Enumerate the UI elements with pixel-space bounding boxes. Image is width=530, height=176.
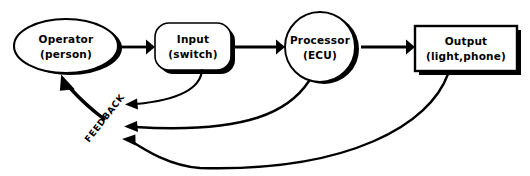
arrow-processor-to-output [361,40,415,55]
feedback-from-processor-head [124,121,138,132]
output-label-line2: (light,phone) [426,50,506,62]
arrow-operator-to-input-head [146,40,155,55]
operator-label-line1: Operator [39,33,94,45]
output-box-fill [415,26,517,71]
feedback-from-processor [124,81,309,132]
input-label-line1: Input [177,33,209,45]
feedback-from-output [122,74,448,168]
processor-label-line2: (ECU) [303,49,337,61]
arrow-input-to-processor-head [276,40,285,55]
input-label-line2: (switch) [168,48,217,60]
feedback-from-output-head [122,134,137,146]
feedback-from-processor-shaft [135,81,309,128]
feedback-return-shaft [70,88,104,119]
diagram-svg: Operator (person) Input (switch) Process… [0,0,530,176]
feedback-label: FEEDBACK [83,92,127,144]
node-output[interactable]: Output (light,phone) [415,26,521,75]
feedback-from-output-shaft [131,74,448,168]
node-input[interactable]: Input (switch) [155,23,235,74]
feedback-from-input-head [125,99,138,110]
block-diagram-canvas: Operator (person) Input (switch) Process… [0,0,530,176]
input-box-fill [155,23,231,70]
node-operator[interactable]: Operator (person) [14,19,122,75]
arrow-feedback-to-operator [58,73,104,119]
processor-label-line1: Processor [290,34,351,46]
arrow-operator-to-input [120,40,155,55]
arrow-input-to-processor [235,40,285,55]
feedback-return-head [58,73,75,90]
feedback-from-input-shaft [136,70,202,104]
output-label-line1: Output [445,35,488,47]
arrow-processor-to-output-head [406,40,415,55]
operator-label-line2: (person) [40,48,92,60]
feedback-from-input [125,70,202,110]
node-processor[interactable]: Processor (ECU) [285,12,359,84]
